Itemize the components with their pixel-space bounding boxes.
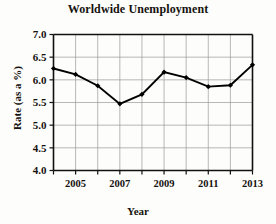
y-tick-label: 7.0 — [33, 28, 47, 40]
y-tick-label: 6.5 — [33, 51, 47, 63]
chart-container: Worldwide Unemployment 4.04.55.05.56.06.… — [0, 0, 276, 224]
y-tick-label: 5.5 — [33, 96, 47, 108]
x-axis-title: Year — [0, 205, 276, 217]
data-series-line — [54, 65, 253, 104]
x-tick-label: 2013 — [242, 178, 263, 189]
x-tick-label: 2007 — [109, 178, 130, 189]
y-tick-label: 5.0 — [33, 119, 47, 131]
y-tick-label: 4.5 — [33, 142, 47, 154]
data-point-marker — [184, 75, 189, 80]
data-point-marker — [51, 66, 56, 71]
data-point-marker — [206, 84, 211, 89]
y-axis-title: Rate (as a %) — [11, 43, 23, 153]
x-tick-label: 2011 — [198, 178, 218, 189]
x-tick-label: 2009 — [154, 178, 175, 189]
y-tick-label: 4.0 — [33, 164, 47, 176]
y-tick-label: 6.0 — [33, 74, 47, 86]
chart-plot-svg: 4.04.55.05.56.06.57.02005200720092011201… — [0, 0, 276, 224]
x-tick-label: 2005 — [65, 178, 86, 189]
